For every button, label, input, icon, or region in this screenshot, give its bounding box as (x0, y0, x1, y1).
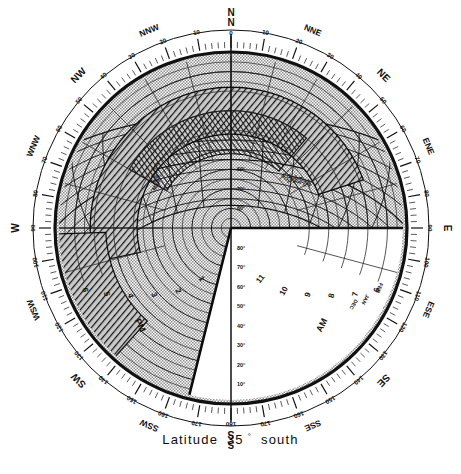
azimuth-tick (281, 49, 283, 55)
azimuth-tick (47, 253, 53, 254)
azimuth-tick (84, 339, 89, 343)
azimuth-tick (108, 366, 116, 375)
azimuth-tick (205, 44, 206, 50)
azimuth-tick (73, 129, 78, 132)
azimuth-tick (198, 405, 200, 417)
azimuth-tick (404, 278, 410, 280)
azimuth-degree-label: 70 (40, 155, 49, 164)
azimuth-tick (116, 370, 120, 375)
azimuth-tick (410, 209, 416, 210)
azimuth-tick (161, 56, 163, 62)
caption-latitude-word: Latitude (162, 432, 218, 447)
azimuth-tick (256, 44, 257, 50)
azimuth-tick (407, 265, 413, 266)
azimuth-tick (380, 124, 385, 127)
azimuth-tick (51, 183, 57, 184)
compass-point-wnw: WNW (24, 133, 42, 158)
azimuth-tick (51, 272, 57, 273)
azimuth-tick (212, 43, 213, 49)
azimuth-tick (262, 405, 264, 417)
azimuth-tick (51, 162, 62, 166)
azimuth-tick (102, 357, 106, 361)
azimuth-tick (65, 318, 75, 324)
azimuth-tick (97, 99, 101, 103)
altitude-label-70: 70° (237, 264, 245, 270)
azimuth-tick (287, 399, 289, 405)
azimuth-degree-label: 20 (159, 36, 168, 45)
compass-point-ese: ESE (421, 300, 437, 320)
azimuth-tick (165, 397, 169, 408)
azimuth-tick (132, 70, 135, 75)
azimuth-tick (51, 290, 62, 294)
azimuth-tick (64, 146, 69, 149)
azimuth-degree-label: 40 (354, 71, 364, 81)
azimuth-tick (42, 195, 54, 197)
azimuth-tick (365, 348, 369, 352)
azimuth-degree-label: 130 (377, 350, 389, 363)
azimuth-tick (155, 58, 157, 63)
azimuth-tick (46, 247, 52, 248)
azimuth-tick (122, 374, 126, 379)
azimuth-tick (293, 397, 297, 408)
azimuth-tick (49, 189, 55, 190)
compass-point-nne: NNE (303, 22, 324, 38)
azimuth-degree-label: 110 (39, 290, 49, 302)
azimuth-tick (356, 94, 360, 98)
azimuth-tick (384, 129, 389, 132)
azimuth-tick (298, 395, 300, 401)
azimuth-tick (180, 401, 182, 407)
azimuth-tick (73, 323, 78, 326)
azimuth-tick (52, 278, 58, 280)
azimuth-tick (93, 104, 97, 108)
azimuth-tick (262, 39, 264, 51)
compass-point-se: SE (375, 372, 392, 389)
azimuth-tick (347, 366, 355, 375)
azimuth-tick (135, 384, 141, 394)
azimuth-tick (61, 301, 66, 303)
azimuth-tick (268, 46, 269, 52)
azimuth-tick (108, 81, 116, 90)
compass-point-wsw: WSW (24, 297, 42, 322)
compass-point-ne: NE (375, 66, 393, 84)
azimuth-tick (180, 49, 182, 55)
azimuth-degree-label: 150 (324, 395, 337, 407)
azimuth-tick (97, 353, 101, 357)
altitude-label-n-60: 60° (237, 166, 245, 172)
azimuth-degree-label: 100 (423, 257, 432, 269)
azimuth-tick (192, 46, 193, 52)
azimuth-tick (400, 162, 411, 166)
azimuth-tick (256, 406, 257, 412)
azimuth-degree-label: 140 (96, 374, 109, 386)
azimuth-tick (149, 61, 152, 66)
azimuth-tick (107, 90, 111, 94)
azimuth-tick (281, 401, 283, 407)
compass-point-w: W (10, 223, 21, 233)
compass-point-sw: SW (68, 371, 88, 391)
compass-point-e: E (442, 225, 453, 232)
azimuth-tick (65, 132, 75, 138)
azimuth-tick (304, 58, 306, 63)
compass-point-n-main: N (227, 17, 234, 28)
azimuth-degree-label: 80 (31, 189, 39, 198)
azimuth-tick (116, 81, 120, 86)
azimuth-tick (93, 348, 97, 352)
azimuth-tick (400, 290, 411, 294)
azimuth-tick (268, 404, 269, 410)
azimuth-tick (356, 357, 360, 361)
azimuth-tick (409, 253, 415, 254)
azimuth-degree-label: 170 (190, 420, 202, 429)
azimuth-tick (365, 104, 369, 108)
azimuth-tick (84, 344, 93, 352)
azimuth-tick (404, 177, 410, 179)
altitude-label-20: 20° (237, 362, 245, 368)
azimuth-tick (59, 158, 65, 160)
azimuth-tick (144, 387, 147, 392)
azimuth-tick (67, 141, 72, 144)
azimuth-tick (205, 406, 206, 412)
azimuth-tick (198, 39, 200, 51)
azimuth-tick (127, 377, 130, 382)
azimuth-tick (122, 78, 126, 83)
azimuth-tick (161, 395, 163, 401)
azimuth-tick (81, 334, 86, 338)
azimuth-tick (409, 202, 415, 203)
